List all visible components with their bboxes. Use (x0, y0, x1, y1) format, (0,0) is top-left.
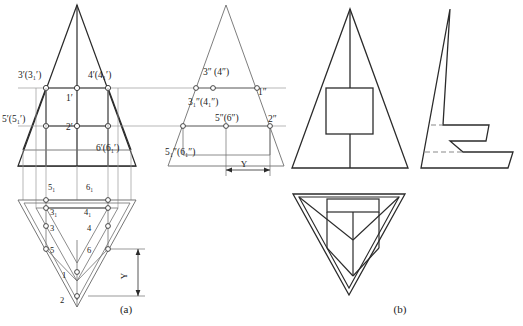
point-3-bottom (44, 224, 49, 229)
point-1-bottom (75, 270, 80, 275)
technical-drawing-figure: 3′(3₁′) 4′(4₁′) 1′ 5′(5₁′) 2′ 6′(6₁′) 3″… (0, 0, 523, 326)
label-1: 1 (62, 270, 66, 280)
caption-a: (a) (120, 303, 133, 316)
label-2-double-prime: 2″ (268, 114, 277, 124)
label-6-prime: 6′(6₁′) (96, 143, 119, 154)
label-1-double-prime: 1″ (258, 87, 267, 97)
label-5-prime: 5′(5₁′) (2, 114, 25, 125)
label-5i: 5₁ (48, 182, 55, 192)
label-3i-double-prime: 3₁″(4₁″) (188, 97, 218, 108)
point-5i-double-prime (181, 124, 186, 129)
label-4-prime: 4′(4₁′) (88, 70, 111, 81)
point-3i-bottom (44, 206, 49, 211)
point-5-double-prime (224, 124, 229, 129)
label-5i-double-prime: 5₁″(6₁″) (165, 147, 195, 158)
point-6i-bottom (106, 198, 111, 203)
label-5-double-prime: 5″(6″) (215, 113, 239, 124)
point-1-prime (74, 85, 79, 90)
point-2-prime (74, 123, 79, 128)
solution-bottom-band (327, 199, 379, 212)
label-4i: 4₁ (84, 207, 91, 217)
dimension-label-front: Y (119, 272, 129, 279)
label-1-prime: 1′ (66, 93, 73, 103)
caption-b: (b) (394, 303, 407, 316)
canvas-background (0, 0, 523, 326)
label-2-prime: 2′ (66, 122, 73, 132)
point-2-double-prime (268, 124, 273, 129)
point-2-bottom (75, 294, 80, 299)
drawing-canvas: 3′(3₁′) 4′(4₁′) 1′ 5′(5₁′) 2′ 6′(6₁′) 3″… (0, 0, 523, 326)
dimension-label-side: Y (241, 159, 248, 169)
label-6i: 6₁ (86, 182, 93, 192)
solution-front-square-hole (326, 88, 373, 134)
label-6: 6 (87, 245, 91, 255)
point-5-bottom (44, 247, 49, 252)
label-3-prime: 3′(3₁′) (18, 70, 41, 81)
label-3-double-prime: 3″ (4″) (203, 67, 229, 78)
point-3-double-prime (194, 86, 199, 91)
point-4-bottom (106, 224, 111, 229)
label-3: 3 (50, 223, 54, 233)
label-3i: 3₁ (50, 207, 57, 217)
point-3i-double-prime (211, 86, 216, 91)
point-5i-bottom (44, 198, 49, 203)
label-5: 5 (50, 245, 54, 255)
point-4i-bottom (106, 206, 111, 211)
label-2: 2 (60, 295, 64, 305)
point-6-bottom (106, 247, 111, 252)
